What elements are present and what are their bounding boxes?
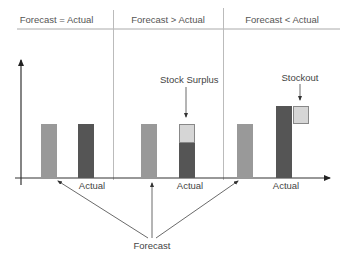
- actual-label-2: Actual: [172, 180, 208, 191]
- surplus-box: [179, 124, 195, 143]
- forecast-label: Forecast: [130, 240, 174, 251]
- forecast-bar-1: [41, 124, 57, 178]
- actual-bar-3: [276, 106, 292, 178]
- forecast-vs-actual-diagram: Forecast = Actual Forecast > Actual Fore…: [0, 0, 348, 263]
- stock-surplus-label: Stock Surplus: [160, 74, 216, 85]
- stockout-box: [293, 106, 309, 124]
- forecast-bar-3: [237, 124, 253, 178]
- stockout-label: Stockout: [280, 72, 320, 83]
- actual-bar-1: [78, 124, 94, 178]
- forecast-bar-2: [141, 124, 157, 178]
- actual-label-1: Actual: [74, 180, 110, 191]
- actual-bar-2: [179, 143, 195, 178]
- actual-label-3: Actual: [268, 180, 304, 191]
